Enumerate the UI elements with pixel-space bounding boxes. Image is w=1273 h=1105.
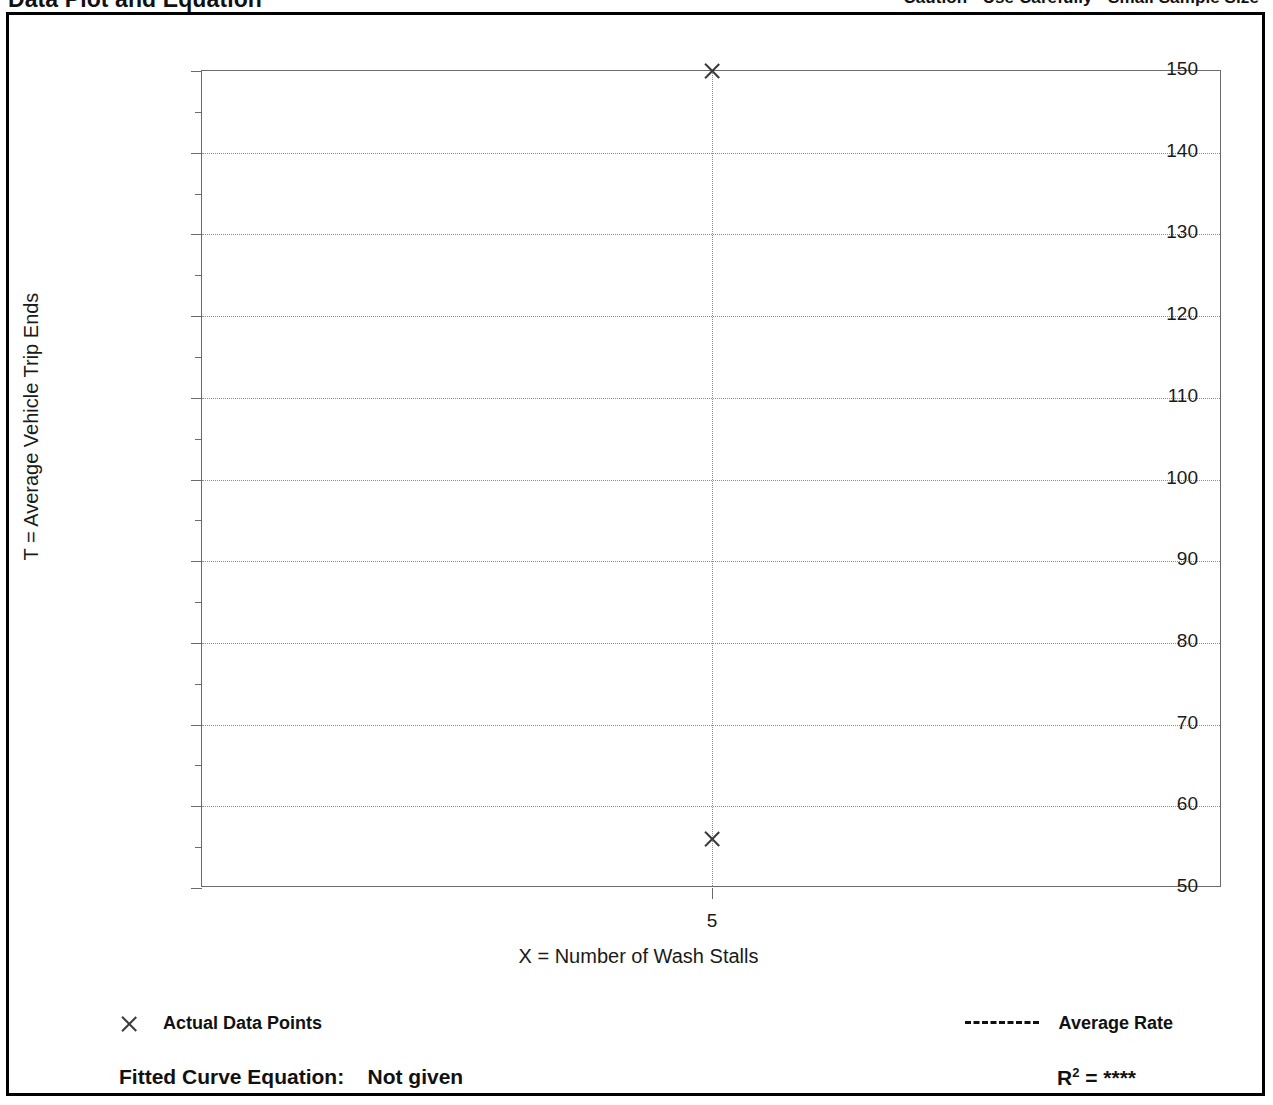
gridline-y-80 bbox=[202, 643, 1220, 644]
y-minor-tick-85 bbox=[195, 602, 202, 603]
y-minor-tick-105 bbox=[195, 439, 202, 440]
y-tick-110 bbox=[191, 398, 202, 399]
y-minor-tick-145 bbox=[195, 112, 202, 113]
gridline-y-110 bbox=[202, 398, 1220, 399]
y-tick-50 bbox=[191, 888, 202, 889]
r-squared-equals: = bbox=[1079, 1066, 1103, 1089]
gridline-y-120 bbox=[202, 316, 1220, 317]
y-tick-label-110: 110 bbox=[1128, 385, 1198, 407]
y-tick-90 bbox=[191, 561, 202, 562]
x-marker-icon bbox=[119, 1014, 139, 1034]
legend-label-average-rate: Average Rate bbox=[1059, 1013, 1173, 1034]
y-tick-label-150: 150 bbox=[1128, 58, 1198, 80]
y-tick-140 bbox=[191, 153, 202, 154]
y-minor-tick-135 bbox=[195, 194, 202, 195]
x-tick-label-5: 5 bbox=[682, 910, 742, 932]
fitted-curve-equation-value: Not given bbox=[368, 1065, 464, 1088]
plot-area: 5060708090100110120130140150 5 bbox=[201, 70, 1221, 887]
y-tick-120 bbox=[191, 316, 202, 317]
average-rate-line bbox=[712, 71, 713, 886]
legend-label-actual-data-points: Actual Data Points bbox=[163, 1013, 322, 1034]
gridline-y-60 bbox=[202, 806, 1220, 807]
y-tick-label-50: 50 bbox=[1128, 875, 1198, 897]
gridline-y-100 bbox=[202, 480, 1220, 481]
gridline-y-130 bbox=[202, 234, 1220, 235]
y-tick-label-140: 140 bbox=[1128, 140, 1198, 162]
chart-panel-frame: T = Average Vehicle Trip Ends 5060708090… bbox=[6, 12, 1265, 1096]
y-tick-label-90: 90 bbox=[1128, 548, 1198, 570]
fitted-curve-equation-label: Fitted Curve Equation: bbox=[119, 1065, 344, 1088]
y-tick-130 bbox=[191, 234, 202, 235]
y-axis-title: T = Average Vehicle Trip Ends bbox=[20, 217, 43, 637]
gridline-y-90 bbox=[202, 561, 1220, 562]
y-minor-tick-75 bbox=[195, 684, 202, 685]
y-tick-150 bbox=[191, 71, 202, 72]
gridline-y-140 bbox=[202, 153, 1220, 154]
y-tick-label-120: 120 bbox=[1128, 303, 1198, 325]
y-tick-label-70: 70 bbox=[1128, 712, 1198, 734]
scatter-chart: T = Average Vehicle Trip Ends 5060708090… bbox=[9, 15, 1268, 1099]
x-axis-title: X = Number of Wash Stalls bbox=[9, 945, 1268, 968]
r-squared-symbol: R bbox=[1057, 1066, 1072, 1089]
x-tick-5 bbox=[712, 888, 713, 899]
data-point-marker bbox=[702, 61, 722, 81]
data-point-marker bbox=[702, 829, 722, 849]
r-squared-number: **** bbox=[1103, 1066, 1136, 1089]
y-tick-label-60: 60 bbox=[1128, 793, 1198, 815]
y-minor-tick-115 bbox=[195, 357, 202, 358]
y-minor-tick-125 bbox=[195, 275, 202, 276]
y-tick-80 bbox=[191, 643, 202, 644]
y-minor-tick-65 bbox=[195, 765, 202, 766]
r-squared-value: R2 = **** bbox=[1057, 1065, 1136, 1090]
dashed-line-icon bbox=[965, 1021, 1039, 1024]
y-tick-label-130: 130 bbox=[1128, 221, 1198, 243]
fitted-curve-equation: Fitted Curve Equation: Not given bbox=[119, 1065, 463, 1089]
legend-actual-data-points: Actual Data Points bbox=[119, 1013, 322, 1034]
y-tick-60 bbox=[191, 806, 202, 807]
y-tick-100 bbox=[191, 480, 202, 481]
y-tick-70 bbox=[191, 725, 202, 726]
caution-note: Caution - Use Carefully - Small Sample S… bbox=[903, 0, 1259, 8]
y-minor-tick-55 bbox=[195, 847, 202, 848]
y-tick-label-80: 80 bbox=[1128, 630, 1198, 652]
y-minor-tick-95 bbox=[195, 520, 202, 521]
gridline-y-70 bbox=[202, 725, 1220, 726]
y-tick-label-100: 100 bbox=[1128, 467, 1198, 489]
legend-average-rate: Average Rate bbox=[965, 1013, 1173, 1034]
